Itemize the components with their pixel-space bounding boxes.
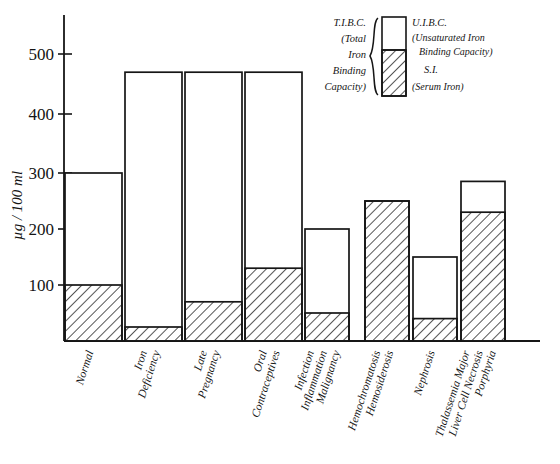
legend-si-label: S.I. (424, 64, 438, 75)
legend-swatch-si (382, 50, 406, 96)
y-tick-label-100: 100 (29, 276, 55, 295)
bar-segment-si (65, 285, 122, 341)
bar-group (125, 72, 182, 341)
bar-segment-si (461, 212, 505, 341)
y-tick-label-300: 300 (29, 164, 55, 183)
bar-group (245, 72, 302, 341)
chart-figure: 100 200 300 400 500 µg / 100 ml NormalIr… (0, 0, 560, 464)
bar-segment-si (245, 268, 302, 341)
bar-segment-si (305, 313, 349, 341)
bar-group (413, 257, 457, 341)
legend-tibc-line-2: Iron (347, 49, 366, 60)
bar-segment-uibc (125, 72, 182, 341)
y-tick-label-500: 500 (29, 45, 55, 64)
bar-segment-si (365, 201, 409, 341)
bar-group (305, 229, 349, 341)
bar-segment-si (413, 319, 457, 341)
legend-si-sub: (Serum Iron) (412, 81, 464, 93)
y-axis-title: µg / 100 ml (9, 171, 25, 240)
legend-tibc-line-1: (Total (341, 33, 366, 45)
bar-segment-uibc (185, 72, 242, 341)
bar-group (185, 72, 242, 341)
bar-segment-si (185, 302, 242, 341)
bar-group (365, 201, 409, 341)
legend-tibc-line-3: Binding (333, 65, 366, 76)
bar-group (461, 181, 505, 341)
legend-tibc-line-4: Capacity) (325, 81, 367, 93)
legend-uibc-label: U.I.B.C. (412, 17, 447, 28)
bar-group (65, 173, 122, 341)
y-tick-label-400: 400 (29, 105, 55, 124)
y-tick-label-200: 200 (29, 220, 55, 239)
legend-uibc-sub-1: Binding Capacity) (419, 46, 493, 58)
legend-tibc-line-0: T.I.B.C. (334, 17, 366, 28)
legend-uibc-sub-0: (Unsaturated Iron (412, 32, 485, 44)
bar-segment-si (125, 327, 182, 341)
